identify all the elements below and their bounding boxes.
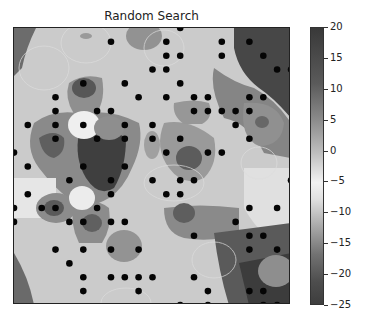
scatter-point	[246, 39, 253, 46]
scatter-point	[135, 94, 142, 101]
colorbar-tick-label: 20	[330, 22, 343, 32]
scatter-point	[108, 274, 115, 281]
colorbar-tick	[324, 181, 328, 182]
colorbar-tick	[324, 120, 328, 121]
scatter-point	[80, 246, 87, 253]
colorbar-tick-label: −5	[330, 176, 345, 186]
colorbar-tick	[324, 27, 328, 28]
scatter-point	[246, 94, 253, 101]
colorbar-tick	[324, 58, 328, 59]
scatter-point	[149, 274, 156, 281]
scatter-point	[177, 136, 184, 143]
scatter-point	[219, 52, 226, 59]
scatter-point	[246, 136, 253, 143]
scatter-point	[260, 288, 267, 295]
colorbar-tick	[324, 305, 328, 306]
scatter-point	[149, 136, 156, 143]
colorbar-tick	[324, 243, 328, 244]
scatter-point	[122, 163, 129, 170]
scatter-point	[177, 52, 184, 59]
scatter-point	[80, 163, 87, 170]
scatter-point	[80, 219, 87, 226]
scatter-point	[108, 39, 115, 46]
scatter-point	[149, 177, 156, 184]
scatter-point	[80, 288, 87, 295]
scatter-point	[246, 205, 253, 212]
scatter-point	[274, 205, 281, 212]
colorbar-tick-label: −10	[330, 207, 351, 217]
chart-title: Random Search	[13, 9, 290, 23]
scatter-point	[163, 94, 170, 101]
scatter-point	[122, 219, 129, 226]
scatter-point	[219, 149, 226, 156]
scatter-point	[191, 108, 198, 115]
scatter-point	[232, 108, 239, 115]
heatmap-svg	[14, 28, 290, 304]
scatter-point	[122, 274, 129, 281]
scatter-point	[205, 94, 212, 101]
scatter-point	[135, 274, 142, 281]
scatter-point	[52, 94, 59, 101]
scatter-point	[260, 52, 267, 59]
scatter-point	[191, 94, 198, 101]
scatter-point	[191, 177, 198, 184]
scatter-point	[246, 246, 253, 253]
scatter-point	[66, 177, 73, 184]
scatter-point	[135, 246, 142, 253]
scatter-point	[38, 205, 45, 212]
scatter-point	[163, 149, 170, 156]
scatter-point	[80, 122, 87, 129]
scatter-point	[205, 149, 212, 156]
scatter-point	[25, 163, 32, 170]
scatter-point	[149, 122, 156, 129]
scatter-point	[260, 233, 267, 240]
colorbar-tick	[324, 212, 328, 213]
colorbar-tick-label: 0	[330, 146, 336, 156]
scatter-point	[108, 108, 115, 115]
scatter-point	[149, 66, 156, 73]
scatter-point	[80, 274, 87, 281]
scatter-point	[274, 246, 281, 253]
scatter-point	[94, 136, 101, 143]
scatter-point	[52, 205, 59, 212]
heatmap-plot-area	[13, 27, 290, 304]
scatter-point	[66, 219, 73, 226]
scatter-point	[246, 108, 253, 115]
scatter-point	[52, 246, 59, 253]
scatter-point	[108, 219, 115, 226]
scatter-point	[205, 288, 212, 295]
scatter-point	[163, 66, 170, 73]
colorbar-tick-label: −15	[330, 238, 351, 248]
scatter-point	[52, 108, 59, 115]
scatter-point	[108, 177, 115, 184]
scatter-point	[274, 66, 281, 73]
scatter-point	[219, 108, 226, 115]
scatter-point	[122, 80, 129, 87]
scatter-point	[246, 233, 253, 240]
scatter-point	[122, 136, 129, 143]
colorbar-tick	[324, 151, 328, 152]
colorbar-tick-label: 5	[330, 115, 336, 125]
colorbar-tick-label: 15	[330, 53, 343, 63]
scatter-point	[25, 122, 32, 129]
scatter-point	[66, 260, 73, 267]
scatter-point	[163, 52, 170, 59]
colorbar-tick	[324, 89, 328, 90]
colorbar-tick-label: −20	[330, 269, 351, 279]
colorbar	[310, 27, 324, 305]
scatter-point	[122, 122, 129, 129]
colorbar-tick	[324, 274, 328, 275]
colorbar-tick-label: 10	[330, 84, 343, 94]
scatter-point	[246, 288, 253, 295]
scatter-point	[177, 80, 184, 87]
scatter-point	[94, 205, 101, 212]
scatter-point	[219, 39, 226, 46]
scatter-point	[52, 122, 59, 129]
scatter-point	[177, 177, 184, 184]
colorbar-tick-label: −25	[330, 300, 351, 310]
scatter-point	[108, 246, 115, 253]
scatter-point	[108, 191, 115, 198]
scatter-point	[163, 191, 170, 198]
scatter-point	[191, 274, 198, 281]
scatter-point	[163, 39, 170, 46]
